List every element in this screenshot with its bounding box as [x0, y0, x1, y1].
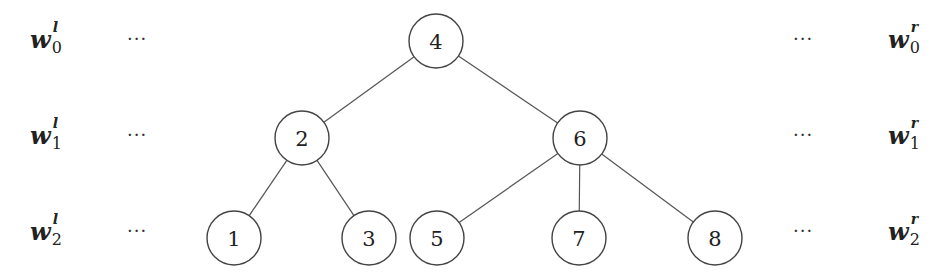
tree-nodes: 42613578 — [207, 14, 742, 265]
right-ellipsis-row-2: ··· — [793, 222, 813, 240]
node-label: 5 — [430, 227, 443, 251]
node-label: 7 — [572, 227, 585, 251]
node-label: 2 — [295, 127, 308, 151]
right-ellipsis-row-1: ··· — [793, 126, 813, 144]
node-label: 1 — [227, 227, 240, 251]
tree-node-3: 3 — [342, 211, 396, 265]
left-label-sup: l — [53, 116, 58, 130]
tree-node-6: 6 — [553, 111, 607, 165]
right-label-sub: 2 — [910, 232, 920, 248]
right-label-sub: 0 — [910, 40, 920, 56]
left-label-sup: l — [53, 212, 58, 226]
left-ellipsis-row-1: ··· — [127, 126, 147, 144]
right-label-sup: r — [911, 116, 918, 130]
tree-node-5: 5 — [410, 211, 464, 265]
right-label-sup: r — [911, 20, 918, 34]
tree-node-4: 4 — [409, 14, 463, 68]
tree-node-1: 1 — [207, 211, 261, 265]
left-label-row-0: wl0 — [30, 28, 65, 52]
left-label-sub: 0 — [52, 40, 62, 56]
left-label-row-2: wl2 — [30, 220, 65, 244]
right-label-row-0: wr0 — [888, 28, 923, 52]
tree-node-8: 8 — [688, 211, 742, 265]
edge-4-2 — [324, 57, 414, 122]
left-label-row-1: wl1 — [30, 124, 65, 148]
left-label-sub: 1 — [52, 136, 62, 152]
left-label-sup: l — [53, 20, 58, 34]
right-ellipsis-row-0: ··· — [793, 30, 813, 48]
edge-6-8 — [602, 154, 694, 222]
tree-node-2: 2 — [275, 111, 329, 165]
right-label-sup: r — [911, 212, 918, 226]
left-label-sub: 2 — [52, 232, 62, 248]
right-label-sub: 1 — [910, 136, 920, 152]
right-label-row-2: wr2 — [888, 220, 923, 244]
left-ellipsis-row-2: ··· — [127, 222, 147, 240]
node-label: 3 — [362, 227, 375, 251]
node-label: 8 — [708, 227, 721, 251]
tree-node-7: 7 — [552, 211, 606, 265]
left-ellipsis-row-0: ··· — [127, 30, 147, 48]
node-label: 4 — [429, 30, 442, 54]
node-label: 6 — [573, 127, 586, 151]
right-label-row-1: wr1 — [888, 124, 923, 148]
edge-4-6 — [458, 56, 557, 123]
edge-6-5 — [459, 153, 558, 222]
edge-2-3 — [317, 160, 354, 215]
edge-2-1 — [249, 160, 287, 215]
